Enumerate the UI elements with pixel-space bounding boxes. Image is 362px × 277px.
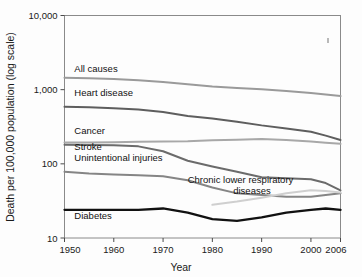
series-label-heart-disease: Heart disease [74,87,133,98]
x-tick-label: 1950 [60,244,81,255]
series-label-chronic-lower-respiratory-diseases: Chronic lower respiratory [188,174,294,185]
x-tick-label: 1960 [103,244,124,255]
series-label-chronic-lower-respiratory-diseases-line2: diseases [233,185,271,196]
x-tick-label: 2006 [325,244,346,255]
x-axis-tick-labels: 1950196019701980199020002006 [60,244,347,255]
series-label-stroke: Stroke [74,141,101,152]
figure-container: 10,0001,00010010 19501960197019801990200… [0,0,362,277]
x-tick-label: 1970 [153,244,174,255]
series-label-unintentional-injuries: Unintentional injuries [74,152,162,163]
series-label-diabetes: Diabetes [74,210,112,221]
series-lines-group [65,78,341,221]
x-tick-label: 1990 [251,244,272,255]
series-label-cancer: Cancer [74,125,105,136]
x-tick-label: 2000 [300,244,321,255]
mortality-trends-line-chart: 10,0001,00010010 19501960197019801990200… [0,0,362,277]
series-line-heart-disease [65,107,341,140]
y-tick-label: 100 [42,158,58,169]
y-tick-label: 10 [47,233,58,244]
y-tick-label: 1,000 [34,84,58,95]
y-axis-title: Death per 100,000 population (log scale) [4,32,16,222]
y-axis-tick-labels: 10,0001,00010010 [28,10,57,244]
scan-artifact-speck [327,38,329,43]
x-axis-title: Year [170,261,192,273]
y-tick-label: 10,000 [28,10,57,21]
series-line-cancer [65,139,341,144]
y-axis-ticks [61,16,65,239]
x-tick-label: 1980 [202,244,223,255]
plot-frame [65,16,341,239]
x-axis-ticks [65,238,341,242]
series-label-all-causes: All causes [74,63,118,74]
